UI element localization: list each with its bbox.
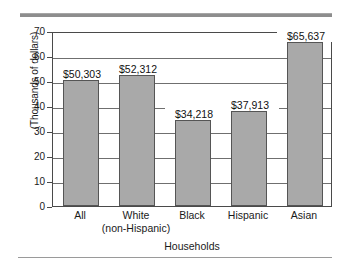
bar [231,111,267,206]
x-tick-label-line1: All [74,209,86,221]
y-tick-label: 60 [34,51,45,62]
y-tick-label: 50 [34,76,45,87]
x-tick-label-line1: Hispanic [228,209,268,221]
plot-area: $50,303$52,312$34,218$37,913$65,637 [52,32,332,207]
x-tick-label-line1: Black [179,209,205,221]
y-tick-label: 40 [34,101,45,112]
top-divider-rule [20,13,332,17]
bar [119,75,155,206]
y-tick-label: 10 [34,176,45,187]
x-tick-label-line1: Asian [291,209,317,221]
x-tick-label: Asian [264,209,344,222]
y-tick-label: 70 [34,26,45,37]
bar-value-label: $65,637 [277,30,335,42]
x-tick-label-line2: (non-Hispanic) [96,222,176,235]
x-axis-title: Households [52,240,332,252]
y-tick-label: 20 [34,151,45,162]
bar [63,80,99,206]
bar-series: $50,303$52,312$34,218$37,913$65,637 [53,33,331,206]
bar-value-label: $37,913 [221,99,279,111]
bar-chart-figure: (Thousands of dollars) 010203040506070 $… [0,0,348,272]
x-tick-label-line1: White [123,209,150,221]
bar-value-label: $52,312 [109,63,167,75]
y-tick-mark [47,207,52,208]
bar-value-label: $50,303 [53,68,111,80]
bar [175,120,211,206]
bar-value-label: $34,218 [165,108,223,120]
y-axis-tick-labels: 010203040506070 [0,32,52,207]
y-tick-label: 30 [34,126,45,137]
bottom-divider-rule [18,257,332,258]
bar [287,42,323,206]
x-axis-tick-labels: AllWhite(non-Hispanic)BlackHispanicAsian [52,209,332,243]
